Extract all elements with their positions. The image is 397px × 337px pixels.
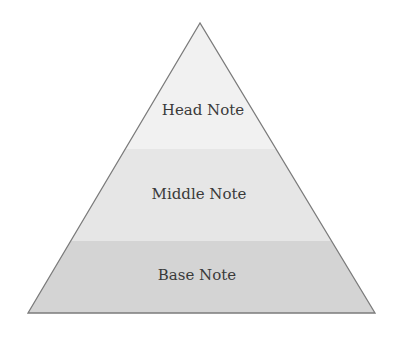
middle-note-label: Middle Note xyxy=(152,185,247,203)
head-note-label: Head Note xyxy=(162,101,244,119)
base-note-label: Base Note xyxy=(158,266,236,284)
layer-head-note xyxy=(0,0,397,149)
fragrance-pyramid-diagram: Head Note Middle Note Base Note xyxy=(0,0,397,337)
